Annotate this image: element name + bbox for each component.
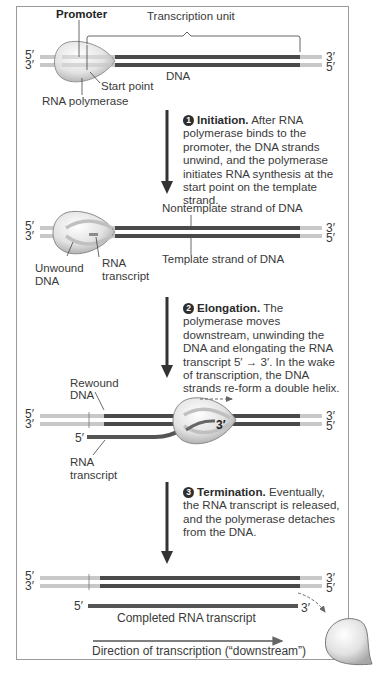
step-number-badge: 2 <box>183 303 194 314</box>
step-title: Elongation. <box>197 301 260 314</box>
promoter-label: Promoter <box>56 8 107 21</box>
end-label-5prime: 5′ <box>326 233 335 244</box>
completed-rna-label: Completed RNA transcript <box>117 612 256 625</box>
dna-label: DNA <box>166 70 190 83</box>
rewound-dna-label: DNA <box>70 389 94 402</box>
step-title: Termination. <box>197 485 266 498</box>
transcription-unit-label: Transcription unit <box>147 10 235 23</box>
completed-rna-strand <box>88 604 298 608</box>
rna-transcript-label: transcript <box>102 270 149 283</box>
end-label-5prime: 5′ <box>326 583 335 594</box>
nontemplate-strand-label: Nontemplate strand of DNA <box>162 202 303 215</box>
end-label-3prime: 3′ <box>25 60 34 71</box>
rna-transcript-label: RNA <box>70 456 94 469</box>
template-strand-label: Template strand of DNA <box>162 253 284 266</box>
step-title: Initiation. <box>197 113 249 126</box>
rna-transcript-label: transcript <box>70 469 117 482</box>
end-label-3prime: 3′ <box>25 419 34 430</box>
panel-initiation-dna <box>40 20 322 95</box>
rna-polymerase-label: RNA polymerase <box>42 95 128 108</box>
step-description: After RNA polymerase binds to the promot… <box>183 113 333 206</box>
end-label-5prime: 5′ <box>326 62 335 73</box>
step-elongation: 2Elongation. The polymerase moves downst… <box>183 301 343 395</box>
step-termination: 3Termination. Eventually, the RNA transc… <box>183 485 343 539</box>
unwound-dna-label: DNA <box>35 275 59 288</box>
rna-transcript-strand <box>87 428 185 437</box>
rna-3prime-label: 3′ <box>301 603 310 614</box>
rna-3prime-label: 3′ <box>216 420 226 431</box>
rna-polymerase-shape <box>55 41 116 81</box>
rna-5prime-label: 5′ <box>74 601 83 612</box>
step-number-badge: 1 <box>183 115 194 126</box>
released-polymerase-shape <box>325 619 372 665</box>
step-description: The polymerase moves downstream, unwindi… <box>183 301 340 394</box>
step-initiation: 1Initiation. After RNA polymerase binds … <box>183 113 343 207</box>
end-label-3prime: 3′ <box>25 231 34 242</box>
rna-transcript-label: RNA <box>102 257 126 270</box>
direction-of-transcription-label: Direction of transcription (“downstream”… <box>92 645 306 658</box>
rna-5prime-label: 5′ <box>75 433 84 444</box>
end-label-3prime: 3′ <box>25 581 34 592</box>
end-label-5prime: 5′ <box>326 421 335 432</box>
step-number-badge: 3 <box>183 487 194 498</box>
start-point-label: Start point <box>101 80 153 93</box>
unwound-dna-label: Unwound <box>35 262 84 275</box>
panel-initiation-unwound <box>40 211 322 257</box>
